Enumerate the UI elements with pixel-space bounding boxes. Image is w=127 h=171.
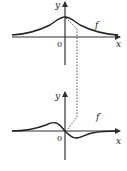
bottom-x-label: x [116, 136, 121, 146]
top-x-label: x [116, 39, 121, 49]
top-origin-label: 0 [57, 40, 62, 49]
function-derivative-diagram: y x 0 f y x 0 f′ [0, 0, 127, 171]
bottom-y-label: y [54, 91, 61, 101]
top-graph: y x 0 f [12, 0, 121, 65]
bottom-origin-label: 0 [57, 134, 62, 143]
tangent-slope-connector [66, 18, 77, 130]
f-curve-label: f [94, 20, 100, 30]
f-prime-curve-label: f′ [95, 112, 101, 122]
bottom-graph: y x 0 f′ [12, 91, 121, 160]
top-y-label: y [54, 0, 61, 10]
